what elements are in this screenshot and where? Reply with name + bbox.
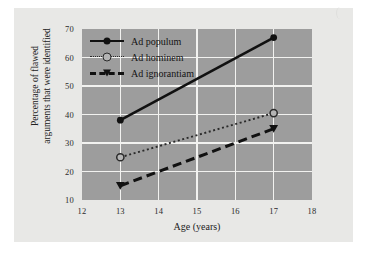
data-point-marker: [270, 109, 277, 116]
legend-point-marker: [103, 53, 112, 62]
data-point-marker: [270, 34, 277, 41]
y-axis-title-line-2: arguments that were identified: [41, 6, 53, 166]
y-axis-title: Percentage of flawed arguments that were…: [29, 6, 57, 166]
legend-point-marker: [104, 38, 111, 45]
legend-item: Ad populum: [88, 33, 218, 49]
legend-label: Ad ignorantiam: [131, 68, 194, 79]
data-point-marker: [117, 154, 124, 161]
series-line: [120, 113, 273, 157]
legend-label: Ad hominem: [131, 52, 184, 63]
x-axis-title: Age (years): [82, 221, 312, 232]
legend-marker-sample: [88, 50, 126, 64]
chart-legend: Ad populumAd hominemAd ignorantiam: [88, 33, 218, 81]
figure-container: 10203040506070 12131415161718 Ad populum…: [0, 0, 370, 262]
legend-item: Ad ignorantiam: [88, 65, 218, 81]
data-point-marker: [117, 117, 124, 124]
y-axis-title-line-1: Percentage of flawed: [29, 6, 41, 166]
legend-marker-sample: [88, 66, 126, 80]
legend-point-marker: [103, 70, 111, 77]
legend-marker-sample: [88, 34, 126, 48]
series-line: [120, 129, 273, 186]
legend-item: Ad hominem: [88, 49, 218, 65]
legend-label: Ad populum: [131, 36, 181, 47]
